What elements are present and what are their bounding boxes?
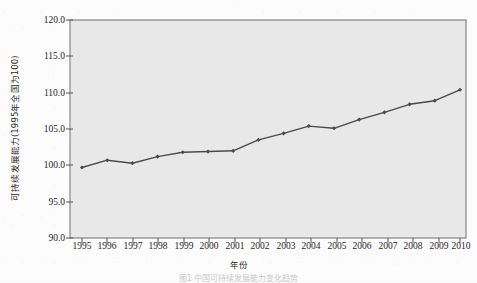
- x-axis-title: 年份: [0, 258, 477, 270]
- figure-caption: 图1 中国可持续发展能力变化趋势: [0, 272, 477, 283]
- x-tick-label: 2010: [446, 241, 476, 251]
- x-axis-tick-labels: 1995 1996 1997 1998 1999 2000 2001 2002 …: [0, 241, 477, 255]
- plot-area: [70, 20, 466, 238]
